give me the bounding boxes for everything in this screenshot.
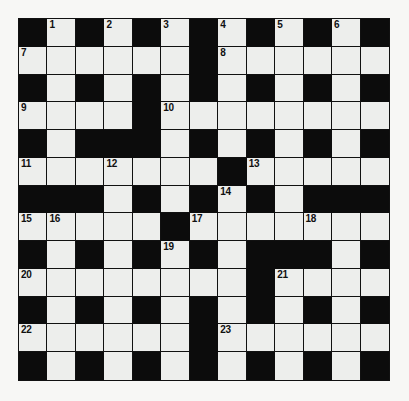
open-cell[interactable]: 6 <box>332 19 360 47</box>
open-cell[interactable] <box>275 352 303 380</box>
open-cell[interactable] <box>161 130 189 158</box>
open-cell[interactable]: 23 <box>218 324 246 352</box>
open-cell[interactable] <box>361 158 389 186</box>
open-cell[interactable] <box>218 213 246 241</box>
open-cell[interactable] <box>361 324 389 352</box>
open-cell[interactable]: 15 <box>19 213 47 241</box>
open-cell[interactable] <box>47 297 75 325</box>
open-cell[interactable] <box>247 324 275 352</box>
open-cell[interactable] <box>161 186 189 214</box>
open-cell[interactable] <box>161 324 189 352</box>
open-cell[interactable] <box>332 352 360 380</box>
open-cell[interactable] <box>133 158 161 186</box>
open-cell[interactable] <box>275 324 303 352</box>
open-cell[interactable] <box>218 297 246 325</box>
open-cell[interactable] <box>275 102 303 130</box>
open-cell[interactable] <box>247 47 275 75</box>
open-cell[interactable] <box>332 47 360 75</box>
open-cell[interactable]: 3 <box>161 19 189 47</box>
open-cell[interactable] <box>47 75 75 103</box>
open-cell[interactable] <box>275 47 303 75</box>
open-cell[interactable]: 12 <box>104 158 132 186</box>
open-cell[interactable] <box>304 269 332 297</box>
open-cell[interactable] <box>218 352 246 380</box>
open-cell[interactable] <box>275 297 303 325</box>
open-cell[interactable] <box>332 297 360 325</box>
open-cell[interactable] <box>104 241 132 269</box>
open-cell[interactable] <box>47 269 75 297</box>
open-cell[interactable] <box>47 241 75 269</box>
open-cell[interactable] <box>361 213 389 241</box>
open-cell[interactable] <box>361 47 389 75</box>
open-cell[interactable] <box>161 352 189 380</box>
open-cell[interactable]: 10 <box>161 102 189 130</box>
open-cell[interactable] <box>304 158 332 186</box>
open-cell[interactable] <box>104 186 132 214</box>
open-cell[interactable] <box>47 352 75 380</box>
open-cell[interactable] <box>247 213 275 241</box>
open-cell[interactable] <box>304 47 332 75</box>
open-cell[interactable]: 13 <box>247 158 275 186</box>
open-cell[interactable] <box>104 102 132 130</box>
open-cell[interactable] <box>218 241 246 269</box>
open-cell[interactable] <box>161 269 189 297</box>
open-cell[interactable] <box>104 75 132 103</box>
open-cell[interactable] <box>332 75 360 103</box>
open-cell[interactable]: 9 <box>19 102 47 130</box>
open-cell[interactable] <box>218 102 246 130</box>
open-cell[interactable] <box>133 47 161 75</box>
open-cell[interactable]: 1 <box>47 19 75 47</box>
open-cell[interactable] <box>275 186 303 214</box>
open-cell[interactable] <box>161 158 189 186</box>
open-cell[interactable] <box>332 241 360 269</box>
open-cell[interactable] <box>47 130 75 158</box>
open-cell[interactable] <box>190 269 218 297</box>
open-cell[interactable] <box>161 75 189 103</box>
open-cell[interactable] <box>304 324 332 352</box>
open-cell[interactable] <box>76 158 104 186</box>
open-cell[interactable] <box>275 75 303 103</box>
open-cell[interactable] <box>332 324 360 352</box>
open-cell[interactable] <box>161 297 189 325</box>
open-cell[interactable] <box>133 324 161 352</box>
open-cell[interactable] <box>104 213 132 241</box>
open-cell[interactable] <box>47 102 75 130</box>
open-cell[interactable] <box>247 102 275 130</box>
open-cell[interactable] <box>161 47 189 75</box>
open-cell[interactable] <box>76 213 104 241</box>
open-cell[interactable]: 20 <box>19 269 47 297</box>
open-cell[interactable] <box>104 352 132 380</box>
open-cell[interactable] <box>104 324 132 352</box>
open-cell[interactable] <box>304 102 332 130</box>
open-cell[interactable] <box>275 213 303 241</box>
open-cell[interactable] <box>133 213 161 241</box>
open-cell[interactable] <box>190 158 218 186</box>
open-cell[interactable] <box>361 102 389 130</box>
open-cell[interactable]: 21 <box>275 269 303 297</box>
open-cell[interactable] <box>133 269 161 297</box>
open-cell[interactable]: 8 <box>218 47 246 75</box>
open-cell[interactable]: 19 <box>161 241 189 269</box>
open-cell[interactable] <box>332 158 360 186</box>
open-cell[interactable] <box>275 158 303 186</box>
open-cell[interactable]: 7 <box>19 47 47 75</box>
open-cell[interactable]: 17 <box>190 213 218 241</box>
open-cell[interactable]: 11 <box>19 158 47 186</box>
crossword-grid[interactable]: 1234567891011121314151617181920212223 <box>18 18 390 381</box>
open-cell[interactable] <box>332 269 360 297</box>
open-cell[interactable] <box>47 158 75 186</box>
open-cell[interactable] <box>275 130 303 158</box>
open-cell[interactable] <box>76 324 104 352</box>
open-cell[interactable]: 4 <box>218 19 246 47</box>
open-cell[interactable] <box>190 102 218 130</box>
open-cell[interactable] <box>361 269 389 297</box>
open-cell[interactable] <box>218 75 246 103</box>
open-cell[interactable]: 16 <box>47 213 75 241</box>
open-cell[interactable]: 22 <box>19 324 47 352</box>
open-cell[interactable] <box>76 269 104 297</box>
open-cell[interactable]: 5 <box>275 19 303 47</box>
open-cell[interactable] <box>332 130 360 158</box>
open-cell[interactable] <box>218 269 246 297</box>
open-cell[interactable] <box>104 47 132 75</box>
open-cell[interactable] <box>47 324 75 352</box>
